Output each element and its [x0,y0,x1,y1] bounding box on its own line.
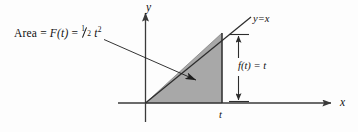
height-dimension-label: f(t) = t [238,61,266,72]
diagram-canvas [0,0,358,132]
shaded-area-triangle [146,33,223,103]
area-exponent-2: 2 [98,25,102,34]
x-axis-label: x [340,97,345,109]
area-formula-label: Area=F(t)=12t2 [14,26,102,40]
y-axis-label: y [146,2,151,14]
x-axis-tick-label-t: t [219,110,222,121]
area-function-text: F(t) [50,27,69,39]
area-prefix-text: Area [14,27,37,39]
area-equals-sign-1: = [40,27,47,39]
figure-container: Area=F(t)=12t2 y x y=x f(t) = t t [0,0,358,132]
area-label-leader-line [104,40,196,81]
fraction-denominator: 2 [87,30,91,38]
area-equals-sign-2: = [72,27,79,39]
one-half-fraction: 12 [81,26,94,38]
line-equation-label: y=x [253,14,269,25]
